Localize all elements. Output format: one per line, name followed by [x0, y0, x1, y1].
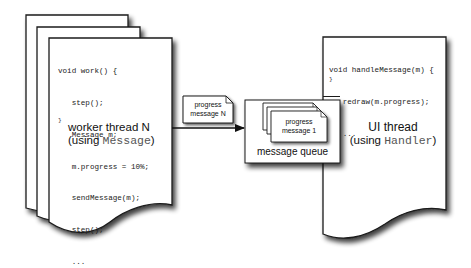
code-line: ...	[58, 257, 149, 268]
ui-thread-subtitle: (using Handler)	[340, 134, 446, 147]
note-line: message 1	[271, 126, 327, 135]
ui-code-closing-brace: }	[329, 75, 333, 86]
subtitle-suffix: )	[151, 134, 155, 146]
message-queue-label: message queue	[245, 146, 340, 157]
queue-head-note-text: progress message 1	[271, 117, 327, 135]
worker-code-closing-brace: }	[58, 116, 62, 127]
code-line: step();	[58, 98, 149, 109]
subtitle-prefix: (using	[350, 134, 385, 146]
note-line: progress	[271, 117, 327, 126]
code-line: void handleMessage(m) {	[329, 65, 434, 76]
code-line: m.progress = 10%;	[58, 162, 149, 173]
worker-code-block: void work() { step(); Message m; m.progr…	[58, 45, 149, 268]
class-name-message: Message	[103, 134, 151, 147]
ui-code-box-bottom	[323, 96, 340, 97]
code-line: step();	[58, 225, 149, 236]
code-line: sendMessage(m);	[58, 193, 149, 204]
subtitle-prefix: (using	[68, 134, 103, 146]
worker-thread-subtitle: (using Message)	[68, 134, 178, 147]
class-name-handler: Handler	[384, 134, 432, 147]
worker-thread-title: worker thread N	[68, 121, 178, 133]
code-line: void work() {	[58, 66, 149, 77]
subtitle-suffix: )	[433, 134, 437, 146]
code-line: redraw(m.progress);	[329, 97, 434, 108]
note-line: progress	[183, 100, 233, 109]
note-line: message N	[183, 109, 233, 118]
in-flight-note-text: progress message N	[183, 100, 233, 118]
ui-thread-title: UI thread	[340, 120, 446, 134]
